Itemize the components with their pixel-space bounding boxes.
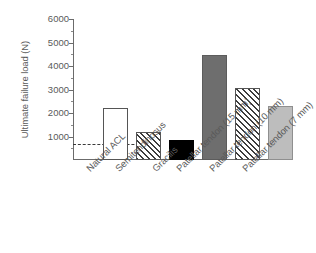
y-axis-tick-labels: 6000 5000 4000 3000 2000 1000 [33, 0, 69, 253]
y-tick-label-5000: 5000 [35, 38, 69, 48]
y-tick-label-3000: 3000 [35, 85, 69, 95]
y-tick-minor-500 [71, 148, 74, 149]
y-axis-line [73, 19, 74, 160]
plot-area [73, 19, 288, 160]
y-tick-label-2000: 2000 [35, 108, 69, 118]
y-tick-major-6000 [69, 19, 73, 20]
y-tick-minor-1500 [71, 125, 74, 126]
y-axis-title: Ultimate failure load (N) [19, 20, 30, 160]
y-tick-label-4000: 4000 [35, 61, 69, 71]
y-tick-major-5000 [69, 43, 73, 44]
y-tick-major-1000 [69, 137, 73, 138]
y-tick-major-4000 [69, 66, 73, 67]
y-tick-major-2000 [69, 113, 73, 114]
y-tick-minor-5500 [71, 31, 74, 32]
bar-chart-figure: Ultimate failure load (N) 6000 5000 4000… [0, 0, 316, 253]
y-tick-minor-4500 [71, 54, 74, 55]
y-tick-label-1000: 1000 [35, 132, 69, 142]
y-tick-minor-2500 [71, 101, 74, 102]
y-tick-minor-3500 [71, 78, 74, 79]
y-tick-label-6000: 6000 [35, 14, 69, 24]
y-tick-major-3000 [69, 90, 73, 91]
